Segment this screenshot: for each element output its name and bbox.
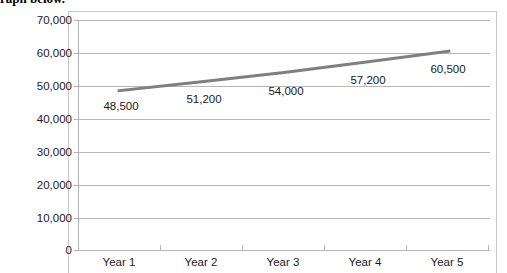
x-axis-tick bbox=[160, 245, 161, 251]
y-axis-line bbox=[78, 20, 79, 251]
x-axis-tick bbox=[488, 245, 489, 251]
y-axis-labels: 70,000 60,000 50,000 40,000 30,000 20,00… bbox=[4, 0, 72, 273]
x-axis-label-year-2: Year 2 bbox=[160, 256, 242, 269]
x-axis-tick bbox=[324, 245, 325, 251]
y-axis-label: 60,000 bbox=[10, 47, 72, 59]
x-axis-line bbox=[78, 250, 490, 251]
y-axis-label: 0 bbox=[10, 244, 72, 256]
x-axis-label-year-4: Year 4 bbox=[324, 256, 406, 269]
gridline bbox=[78, 53, 490, 54]
data-label-year-5: 60,500 bbox=[420, 63, 476, 76]
x-axis-tick bbox=[78, 245, 79, 251]
y-axis-label: 30,000 bbox=[10, 146, 72, 158]
x-axis-tick bbox=[242, 245, 243, 251]
y-axis-label: 70,000 bbox=[10, 14, 72, 26]
gridline bbox=[78, 218, 490, 219]
x-axis-label-year-3: Year 3 bbox=[242, 256, 324, 269]
y-axis-label: 20,000 bbox=[10, 179, 72, 191]
y-axis-label: 40,000 bbox=[10, 113, 72, 125]
x-axis-tick bbox=[406, 245, 407, 251]
data-label-year-4: 57,200 bbox=[340, 74, 396, 87]
plot-area bbox=[78, 20, 490, 250]
x-axis-label-year-5: Year 5 bbox=[406, 256, 488, 269]
gridline bbox=[78, 185, 490, 186]
x-axis-label-year-1: Year 1 bbox=[78, 256, 160, 269]
data-label-year-2: 51,200 bbox=[176, 93, 232, 106]
data-label-year-1: 48,500 bbox=[93, 100, 149, 113]
y-axis-label: 50,000 bbox=[10, 80, 72, 92]
data-label-year-3: 54,000 bbox=[258, 85, 314, 98]
gridline bbox=[78, 152, 490, 153]
gridline bbox=[78, 20, 490, 21]
gridline bbox=[78, 119, 490, 120]
y-axis-label: 10,000 bbox=[10, 212, 72, 224]
